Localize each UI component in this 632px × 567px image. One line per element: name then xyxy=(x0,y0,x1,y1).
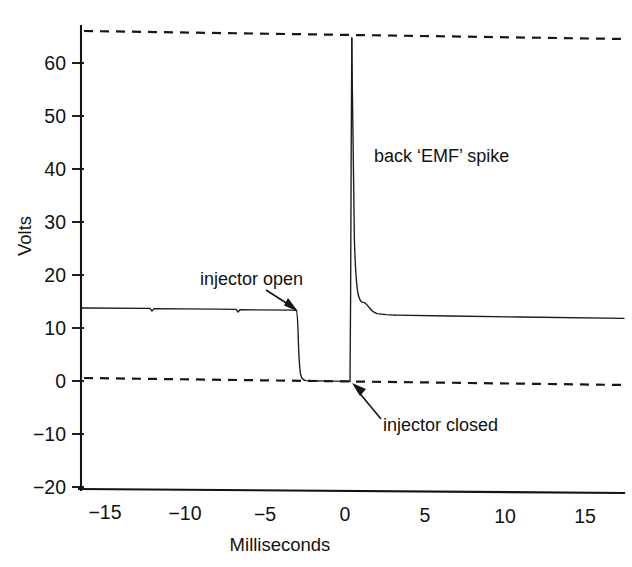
trace-settled-plateau xyxy=(395,315,624,318)
y-tick-label-20: 20 xyxy=(44,264,66,286)
y-tick-label-40: 40 xyxy=(44,158,66,180)
trace-falling-edge xyxy=(296,310,318,381)
x-axis-title: Milliseconds xyxy=(230,534,331,555)
x-tick-label-0: 0 xyxy=(340,503,351,525)
annotation-back-emf-label: back ‘EMF’ spike xyxy=(374,146,509,166)
x-tick-label-minus-15: −15 xyxy=(88,501,121,523)
chart-canvas: 60 50 40 30 20 10 0 −10 −20 −15 −10 −5 0… xyxy=(0,0,632,567)
trace-supply-plateau xyxy=(81,308,296,312)
x-tick-label-5: 5 xyxy=(420,504,431,526)
y-tick-marks xyxy=(72,63,84,487)
x-tick-labels: −15 −10 −5 0 5 10 15 xyxy=(88,501,596,527)
upper-clip-reference-line xyxy=(84,31,624,39)
x-tick-label-10: 10 xyxy=(494,505,516,527)
x-tick-label-minus-5: −5 xyxy=(254,503,276,525)
oscilloscope-chart: 60 50 40 30 20 10 0 −10 −20 −15 −10 −5 0… xyxy=(0,0,632,567)
x-tick-label-minus-10: −10 xyxy=(168,502,201,524)
y-tick-labels: 60 50 40 30 20 10 0 −10 −20 xyxy=(33,52,66,498)
trace-grounded-section xyxy=(318,381,350,382)
x-tick-label-15: 15 xyxy=(574,505,596,527)
y-tick-label-60: 60 xyxy=(44,52,66,74)
annotation-injector-open-label: injector open xyxy=(200,269,303,289)
y-tick-label-10: 10 xyxy=(44,317,66,339)
trace-spike-decay xyxy=(352,38,395,315)
y-tick-label-50: 50 xyxy=(44,105,66,127)
x-axis-line xyxy=(79,489,624,493)
annotation-injector-open: injector open xyxy=(200,269,303,312)
annotation-injector-closed: injector closed xyxy=(352,383,498,435)
signal-trace-group xyxy=(81,38,624,381)
y-axis-title: Volts xyxy=(14,216,35,256)
y-tick-label-minus-20: −20 xyxy=(33,476,66,498)
y-tick-label-30: 30 xyxy=(44,211,66,233)
annotation-back-emf-spike: back ‘EMF’ spike xyxy=(374,146,509,166)
y-tick-label-minus-10: −10 xyxy=(33,423,66,445)
y-tick-label-0: 0 xyxy=(55,370,66,392)
annotation-injector-closed-arrowhead xyxy=(352,383,366,396)
annotation-injector-closed-label: injector closed xyxy=(383,415,498,435)
trace-back-emf-spike xyxy=(350,38,352,381)
